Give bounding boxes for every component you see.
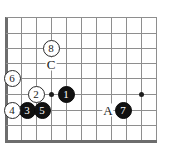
stone-7-number: 7 (120, 104, 126, 115)
stone-1[interactable]: 1 (58, 86, 75, 103)
stone-4-number: 4 (9, 104, 15, 115)
stone-3[interactable]: 3 (19, 102, 36, 119)
stone-4[interactable]: 4 (4, 102, 21, 119)
go-board-diagram: CA 12345678 (0, 0, 170, 154)
stone-3-number: 3 (24, 104, 30, 115)
stone-6[interactable]: 6 (4, 70, 21, 87)
stone-6-number: 6 (9, 72, 15, 83)
stone-5-number: 5 (39, 104, 45, 115)
stone-8[interactable]: 8 (43, 40, 60, 57)
stone-7[interactable]: 7 (115, 102, 132, 119)
stone-1-number: 1 (63, 88, 69, 99)
stones: 12345678 (0, 0, 170, 154)
stone-2-number: 2 (33, 88, 39, 99)
stone-2[interactable]: 2 (28, 86, 45, 103)
stone-8-number: 8 (48, 42, 54, 53)
stone-5[interactable]: 5 (34, 102, 51, 119)
